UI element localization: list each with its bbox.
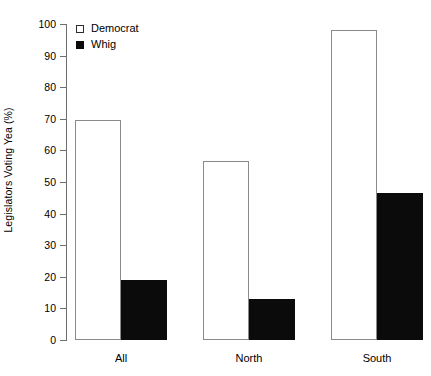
legend-swatch-open-square-icon: [76, 25, 84, 33]
x-axis-category-label: South: [363, 352, 392, 364]
x-axis-category-label: North: [236, 352, 263, 364]
bar-all-whig: [121, 280, 167, 340]
x-axis-category-label: All: [115, 352, 127, 364]
bar-south-whig: [377, 193, 423, 340]
legend-item-whig: Whig: [76, 38, 139, 51]
legend-item-label: Whig: [91, 39, 116, 50]
bar-south-democrat: [331, 30, 377, 340]
legend-swatch-filled-square-icon: [76, 41, 84, 49]
bar-north-democrat: [203, 161, 249, 340]
plot-area: AllNorthSouth: [0, 0, 431, 376]
legend-item-label: Democrat: [91, 23, 139, 34]
bar-north-whig: [249, 299, 295, 340]
legend-item-democrat: Democrat: [76, 22, 139, 35]
bar-all-democrat: [75, 120, 121, 340]
chart-legend: DemocratWhig: [76, 22, 139, 51]
bar-chart: Legislators Voting Yea (%) 0102030405060…: [0, 0, 431, 376]
